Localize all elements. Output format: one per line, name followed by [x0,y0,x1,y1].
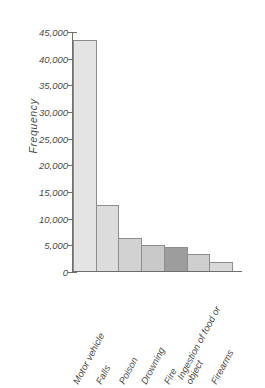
y-tick-label: 20,000 [22,160,68,171]
y-tick-label: 30,000 [22,107,68,118]
bar [118,238,142,271]
y-tick-label: 40,000 [22,53,68,64]
x-tick-label: Falls [94,364,112,386]
bar [73,40,97,271]
bar [187,254,211,271]
bar [141,245,165,271]
bar-series [73,32,232,271]
y-tick-label: 35,000 [22,80,68,91]
x-tick-label: Firearms [209,348,235,386]
x-axis-tick-labels: Motor vehicle Falls Poison Drowning Fire… [72,274,234,386]
y-tick-label: 25,000 [22,133,68,144]
bar [96,205,120,271]
y-axis-tick [68,272,77,273]
y-tick-label: 45,000 [22,27,68,38]
bar-chart: Frequency 45,000 40,000 35,000 30,000 25… [0,0,265,388]
y-tick-label: 5,000 [22,240,68,251]
x-tick-label: Poison [117,356,139,386]
y-tick-label: 0 [22,267,68,278]
bar [164,247,188,271]
y-axis-tick-labels: 45,000 40,000 35,000 30,000 25,000 20,00… [22,0,68,388]
plot-area [72,32,232,272]
x-axis-line [72,271,242,272]
y-tick-label: 10,000 [22,213,68,224]
bar [209,262,233,271]
y-tick-label: 15,000 [22,187,68,198]
